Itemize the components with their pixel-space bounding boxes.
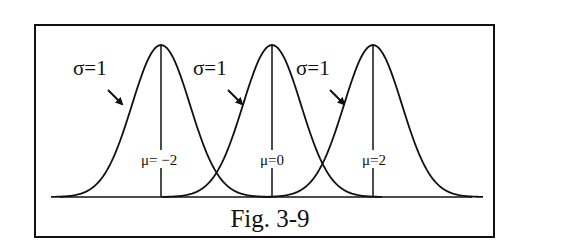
curve-group xyxy=(51,45,483,197)
arrow-icon-1 xyxy=(108,90,122,104)
sigma-label-2: σ=1 xyxy=(193,56,227,80)
sigma-label-3: σ=1 xyxy=(296,56,330,80)
sigma-label-1: σ=1 xyxy=(73,56,107,80)
normal-curves-figure: σ=1 σ=1 σ=1 μ= −2 μ=0 μ=2 Fig. 3-9 xyxy=(0,0,574,247)
mu-label-2: μ=0 xyxy=(260,152,284,168)
mu-label-1: μ= −2 xyxy=(141,152,177,168)
arrow-icon-3 xyxy=(330,90,344,104)
arrow-icon-2 xyxy=(228,90,242,104)
mu-label-3: μ=2 xyxy=(362,152,386,168)
figure-caption: Fig. 3-9 xyxy=(230,205,309,232)
